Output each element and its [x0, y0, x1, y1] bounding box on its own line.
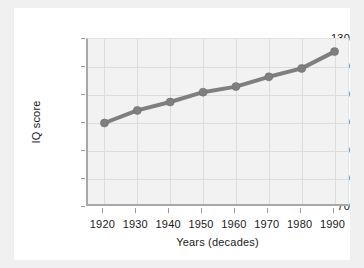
plot-area — [86, 38, 349, 206]
x-axis-tick-mark — [234, 208, 235, 213]
y-axis-tick-mark — [81, 122, 85, 123]
x-axis-tick-label: 1950 — [188, 218, 213, 230]
x-axis-tick-mark — [135, 208, 136, 213]
x-axis-tick-mark — [300, 208, 301, 213]
data-series-iq-score — [88, 39, 351, 207]
y-axis-tick-mark — [81, 94, 85, 95]
x-axis-tick-label: 1960 — [221, 218, 246, 230]
y-axis-tick-mark — [81, 66, 85, 67]
x-axis-tick-mark — [201, 208, 202, 213]
x-axis-tick-label: 1940 — [156, 218, 181, 230]
x-axis-title: Years (decades) — [86, 236, 349, 248]
figure-card: IQ score Years (decades) 130120110100908… — [14, 8, 350, 260]
plot-inner — [88, 39, 348, 204]
y-axis-tick-mark — [81, 178, 85, 179]
x-axis-tick-label: 1990 — [320, 218, 345, 230]
x-axis-tick-mark — [267, 208, 268, 213]
x-axis-tick-label: 1970 — [254, 218, 279, 230]
x-axis-tick-mark — [102, 208, 103, 213]
y-axis-tick-mark — [81, 150, 85, 151]
x-axis-tick-label: 1980 — [287, 218, 312, 230]
y-axis-title: IQ score — [30, 100, 42, 143]
series-line — [104, 52, 334, 123]
x-axis-tick-label: 1930 — [123, 218, 148, 230]
y-axis-tick-mark — [81, 206, 85, 207]
x-axis-tick-label: 1920 — [90, 218, 115, 230]
x-axis-tick-mark — [168, 208, 169, 213]
y-axis-tick-mark — [81, 38, 85, 39]
x-axis-tick-mark — [333, 208, 334, 213]
